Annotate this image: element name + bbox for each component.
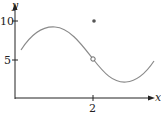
y-axis-label: y bbox=[11, 0, 19, 12]
x-axis-arrow-icon bbox=[148, 96, 155, 101]
x-tick-label-2: 2 bbox=[89, 102, 96, 115]
function-curve bbox=[21, 27, 154, 82]
y-tick-label-5: 5 bbox=[4, 54, 11, 67]
graph: y 10 5 2 x bbox=[0, 0, 161, 117]
open-circle-hole bbox=[91, 57, 95, 61]
y-tick-label-10: 10 bbox=[0, 15, 14, 28]
x-axis-label: x bbox=[155, 91, 161, 104]
filled-dot-value bbox=[92, 19, 96, 23]
